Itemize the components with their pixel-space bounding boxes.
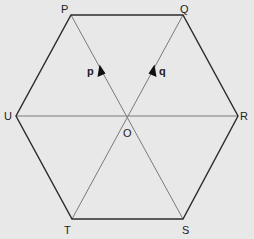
- centre-label-o: O: [123, 127, 132, 139]
- vertex-label-u: U: [4, 110, 12, 122]
- vertex-label-p: P: [61, 3, 68, 15]
- hexagon-svg: p q P Q R S T U O: [0, 0, 254, 239]
- vertex-label-q: Q: [180, 3, 189, 15]
- vector-q-label: q: [159, 65, 166, 77]
- vertex-label-r: R: [240, 110, 248, 122]
- vector-p-label: p: [87, 65, 94, 77]
- diagonals: [16, 15, 238, 219]
- hexagon-diagram: p q P Q R S T U O: [0, 0, 254, 239]
- vertex-label-s: S: [182, 224, 189, 236]
- vertex-label-t: T: [64, 224, 71, 236]
